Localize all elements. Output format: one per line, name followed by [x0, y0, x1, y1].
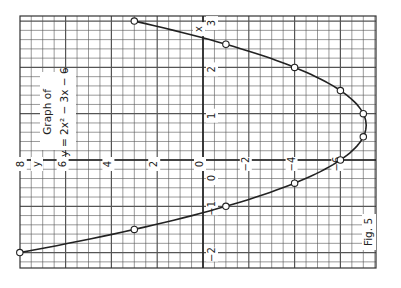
- data-point: [223, 203, 229, 209]
- svg-text:y: y: [31, 161, 42, 167]
- svg-text:−1: −1: [206, 201, 217, 216]
- y-tick-0: 0: [194, 157, 206, 171]
- parabola-graph: 86420−2−4−6y3210−1−2x Graph of y = 2x² −…: [0, 0, 401, 288]
- svg-text:3: 3: [206, 20, 217, 26]
- data-point: [17, 249, 23, 255]
- figure-label: Fig. 5: [362, 214, 376, 250]
- svg-text:2: 2: [148, 161, 159, 167]
- data-point: [131, 18, 137, 24]
- x-tick-2: 2: [206, 62, 218, 76]
- x-tick-1: 1: [206, 109, 218, 123]
- svg-text:4: 4: [102, 161, 113, 167]
- y-tick--4: −4: [286, 157, 298, 172]
- data-point: [337, 157, 343, 163]
- title-line-2: y = 2x² − 3x − 6: [58, 67, 70, 157]
- data-point: [291, 180, 297, 186]
- data-point: [337, 87, 343, 93]
- svg-text:8: 8: [15, 161, 26, 167]
- data-point: [360, 111, 366, 117]
- svg-text:0: 0: [206, 175, 217, 181]
- graph-title: Graph of y = 2x² − 3x − 6: [40, 67, 76, 157]
- svg-text:6: 6: [57, 161, 68, 167]
- x-tick-0: 0: [206, 171, 218, 185]
- svg-text:0: 0: [194, 161, 205, 167]
- y-tick-2: 2: [148, 157, 160, 171]
- title-line-1: Graph of: [41, 89, 53, 135]
- svg-text:x: x: [193, 26, 204, 32]
- y-tick-4: 4: [102, 157, 114, 171]
- x-axis-label: x: [193, 22, 205, 36]
- y-axis-label: y: [31, 157, 43, 171]
- x-tick-3: 3: [206, 16, 218, 30]
- y-tick-8: 8: [15, 157, 27, 171]
- svg-text:−2: −2: [240, 157, 251, 172]
- data-point: [291, 64, 297, 70]
- y-tick--2: −2: [240, 157, 252, 172]
- data-point: [131, 226, 137, 232]
- svg-text:−4: −4: [286, 157, 297, 172]
- data-point: [360, 134, 366, 140]
- fig-label-text: Fig. 5: [362, 218, 374, 246]
- svg-text:1: 1: [206, 113, 217, 119]
- svg-text:2: 2: [206, 66, 217, 72]
- svg-text:−2: −2: [206, 247, 217, 262]
- x-tick--2: −2: [206, 247, 218, 262]
- y-tick-6: 6: [57, 157, 69, 171]
- data-point: [223, 41, 229, 47]
